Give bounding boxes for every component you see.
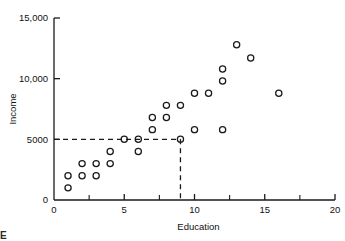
- y-axis-title: Income: [7, 93, 18, 124]
- data-point: [191, 90, 197, 96]
- data-point: [163, 114, 169, 120]
- scatter-plot-figure: 0500010,00015,00005101520EducationIncome: [0, 0, 345, 241]
- data-point: [107, 148, 113, 154]
- data-point: [65, 185, 71, 191]
- data-point: [79, 173, 85, 179]
- y-tick-label-10000: 10,000: [19, 73, 48, 84]
- figure-caption-text: E: [0, 230, 7, 241]
- y-tick-label-5000: 5000: [27, 134, 48, 145]
- x-tick-label-10: 10: [189, 204, 200, 215]
- data-point: [220, 66, 226, 72]
- data-point: [163, 102, 169, 108]
- y-tick-label-15000: 15,000: [19, 12, 48, 23]
- data-point: [107, 161, 113, 167]
- data-point: [220, 78, 226, 84]
- data-point: [248, 55, 254, 61]
- scatter-plot-canvas: 0500010,00015,00005101520EducationIncome: [0, 0, 345, 241]
- figure-caption: E: [0, 230, 345, 241]
- data-point: [220, 127, 226, 133]
- x-tick-label-15: 15: [259, 204, 270, 215]
- x-tick-label-0: 0: [51, 204, 56, 215]
- data-point: [149, 114, 155, 120]
- x-tick-label-20: 20: [330, 204, 341, 215]
- data-point: [93, 173, 99, 179]
- data-point: [65, 173, 71, 179]
- data-point: [79, 161, 85, 167]
- x-tick-label-5: 5: [122, 204, 127, 215]
- x-axis-ticks: 05101520: [51, 194, 340, 215]
- data-point: [205, 90, 211, 96]
- data-points-group: [65, 42, 282, 191]
- data-point: [149, 127, 155, 133]
- annotations-group: [54, 139, 180, 200]
- data-point: [234, 42, 240, 48]
- data-point: [93, 161, 99, 167]
- data-point: [135, 148, 141, 154]
- data-point: [191, 127, 197, 133]
- data-point: [177, 102, 183, 108]
- y-tick-label-0: 0: [43, 194, 48, 205]
- data-point: [276, 90, 282, 96]
